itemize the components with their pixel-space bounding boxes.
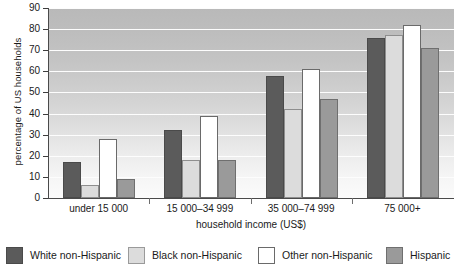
gridline [49,29,454,30]
bar [421,48,439,198]
legend-item: White non-Hispanic [6,243,121,267]
legend-item: Black non-Hispanic [128,243,242,267]
y-axis-tick-label: 60 [10,66,40,76]
bar [63,162,81,198]
y-axis-tick-label: 10 [10,172,40,182]
legend: White non-HispanicBlack non-HispanicOthe… [6,243,454,269]
bar [182,160,200,198]
bar [164,130,182,198]
gridline [49,8,454,9]
y-axis-tick-label: 0 [10,193,40,203]
legend-swatch [258,247,275,264]
y-axis-tick-label: 70 [10,45,40,55]
bar [320,99,338,198]
legend-swatch [386,247,403,264]
legend-swatch [6,247,23,264]
bar [367,38,385,198]
bar [99,139,117,198]
bar [266,76,284,198]
legend-label: White non-Hispanic [30,249,121,261]
y-axis-title: percentage of US households [12,7,23,197]
y-axis-tick-label: 20 [10,151,40,161]
y-axis-tick-label: 30 [10,130,40,140]
legend-item: Hispanic [386,243,450,267]
bar-chart-figure: percentage of US households 010203040506… [0,0,457,273]
bar [117,179,135,198]
legend-swatch [128,247,145,264]
bar [218,160,236,198]
bar [284,109,302,198]
legend-label: Black non-Hispanic [152,249,242,261]
x-axis-tick-label: 75 000+ [352,203,453,214]
x-axis-title: household income (US$) [48,219,454,230]
legend-label: Hispanic [410,249,450,261]
bar [385,35,403,198]
y-axis-tick-label: 90 [10,3,40,13]
x-axis-tick-label: 15 000–34 999 [149,203,250,214]
bar [302,69,320,198]
bar [200,116,218,198]
y-axis-tick-label: 50 [10,87,40,97]
x-axis-tick-label: 35 000–74 999 [251,203,352,214]
bar [403,25,421,198]
legend-label: Other non-Hispanic [282,249,372,261]
y-axis-tick-label: 40 [10,109,40,119]
x-axis-tick-label: under 15 000 [48,203,149,214]
bar [81,185,99,198]
legend-item: Other non-Hispanic [258,243,372,267]
plot-area [48,8,454,198]
y-axis-tick-label: 80 [10,24,40,34]
